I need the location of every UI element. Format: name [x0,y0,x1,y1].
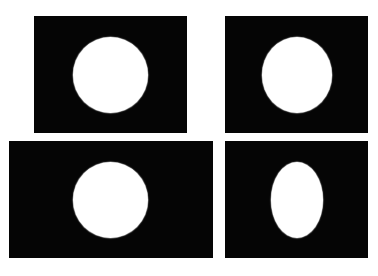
panel-label: 4:3 frame, squeezed ellipse [225,141,237,142]
panel-label: 4:3 frame, circle [34,16,41,17]
circle-shape [73,162,148,238]
ellipse-shape [262,37,332,113]
panel-label: wide frame, circle [9,141,17,142]
frame-panel-top-left: 4:3 frame, circle [34,16,187,133]
cutoff-caption-text [0,0,378,3]
frame-panel-bottom-left: wide frame, circle [9,141,213,258]
ellipse-shape [271,162,323,238]
circle-shape [73,37,148,113]
frame-panel-bottom-right: 4:3 frame, squeezed ellipse [225,141,368,258]
panel-label: 4:3 frame, slightly stretched ellipse [225,16,240,17]
frame-panel-top-right: 4:3 frame, slightly stretched ellipse [225,16,368,133]
